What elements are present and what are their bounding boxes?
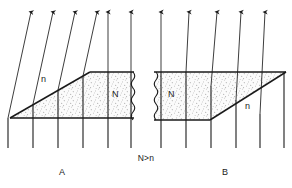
- prism-a-fill: [5, 66, 141, 126]
- ray-a-3: [58, 12, 75, 90]
- panel-a-group: [5, 12, 141, 148]
- ray-a-2: [33, 12, 53, 104]
- ray-a-1: [8, 12, 31, 118]
- ray-b-2: [186, 12, 189, 72]
- label-panel-a: A: [59, 168, 66, 177]
- label-high-index-b: N: [168, 90, 175, 99]
- ray-b-5: [260, 12, 265, 114]
- panel-b-group: [151, 12, 291, 148]
- ray-a-4: [83, 12, 97, 76]
- label-low-index-a: n: [41, 75, 46, 84]
- refraction-figure: n N N n N>n A B: [0, 0, 292, 188]
- label-panel-b: B: [222, 168, 229, 177]
- label-index-relation: N>n: [0, 154, 292, 163]
- label-high-index-a: N: [112, 90, 119, 99]
- label-low-index-b: n: [245, 102, 250, 111]
